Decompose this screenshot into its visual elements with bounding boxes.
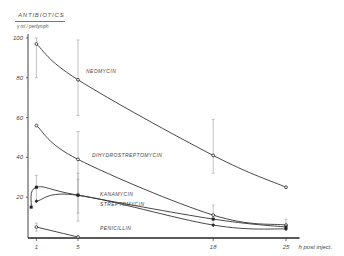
x-axis-label: h post inject. — [298, 244, 332, 250]
line-chart: 20406080100151825h post inject. NEOMYCIN… — [0, 0, 344, 256]
data-point — [77, 158, 80, 161]
y-tick-label: 100 — [13, 35, 24, 41]
data-point — [285, 186, 288, 189]
data-point — [35, 124, 38, 127]
data-point — [212, 154, 215, 157]
x-tick-label: 5 — [76, 244, 80, 250]
y-tick-label: 40 — [16, 154, 23, 160]
series-dihydrostreptomycin — [35, 124, 288, 229]
data-point — [77, 78, 80, 81]
data-point — [35, 43, 38, 46]
data-point — [35, 186, 38, 189]
data-point — [30, 206, 33, 209]
series-group — [30, 38, 288, 238]
data-point — [35, 226, 38, 229]
series-kanamycin — [30, 173, 288, 228]
series-label-neomycin: NEOMYCIN — [86, 68, 116, 74]
x-tick-label: 18 — [210, 244, 217, 250]
series-label-kanamycin: KANAMYCIN — [100, 191, 133, 197]
y-tick-label: 60 — [16, 115, 23, 121]
series-label-streptomycin: STREPTOMYCIN — [100, 201, 144, 207]
series-label-dihydrostreptomycin: DIHYDROSTREPTOMYCIN — [92, 152, 162, 158]
axes: 20406080100151825h post inject. — [13, 34, 332, 250]
series-labels: NEOMYCINDIHYDROSTREPTOMYCINKANAMYCINSTRE… — [86, 68, 162, 231]
series-neomycin — [35, 38, 288, 189]
y-tick-label: 20 — [15, 194, 23, 200]
x-tick-label: 1 — [35, 244, 38, 250]
series-penicillin — [35, 223, 80, 238]
x-tick-label: 25 — [282, 244, 290, 250]
series-label-penicillin: PENICILLIN — [100, 225, 131, 231]
y-tick-label: 80 — [16, 75, 23, 81]
data-point — [211, 223, 215, 227]
data-point — [212, 214, 215, 217]
data-point — [35, 199, 39, 203]
data-point — [212, 218, 215, 221]
data-point — [77, 236, 80, 239]
